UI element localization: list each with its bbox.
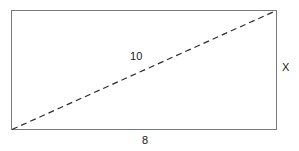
geometry-figure: 10 8 X [0, 0, 299, 151]
diagonal-length-label: 10 [130, 51, 143, 62]
rectangle-width-label: 8 [142, 135, 148, 146]
figure-canvas [0, 0, 299, 151]
diagonal-dashed-line [12, 11, 277, 130]
rectangle-height-label: X [282, 62, 290, 73]
